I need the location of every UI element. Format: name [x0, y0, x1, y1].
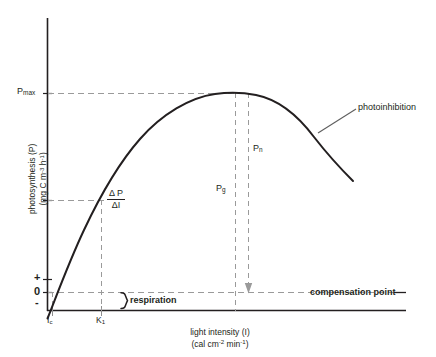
y-tick-label-plus: + — [34, 271, 40, 283]
pn-arrowhead-icon — [245, 283, 252, 294]
slope-denominator: ΔI — [107, 200, 125, 211]
x-axis-title-line2: (cal cm-2 min-1) — [191, 339, 248, 349]
photosynthesis-irradiance-chart: photosynthesis (P) (mg C m-3 h-1) light … — [0, 0, 436, 357]
x-axis-title-line1: light intensity (I) — [190, 327, 250, 337]
y-axis-title-line1: photosynthesis (P) — [27, 144, 37, 214]
pg-label: Pg — [216, 183, 226, 194]
compensation-point-label: compensation point — [310, 287, 396, 297]
slope-fraction: Δ P ΔI — [107, 188, 125, 210]
respiration-label: respiration — [130, 295, 177, 305]
y-tick-label-pmax: Pmax — [17, 86, 35, 97]
photoinhibition-label: photoinhibition — [358, 102, 416, 112]
chart-canvas — [0, 0, 436, 357]
y-axis-title-line2: (mg C m-3 h-1) — [38, 152, 48, 205]
slope-annotation: Δ P ΔI — [107, 188, 125, 212]
x-tick-label-k1: K1 — [96, 316, 105, 326]
photoinhibition-leader-line — [318, 109, 356, 133]
pn-label: Pn — [253, 143, 263, 154]
x-axis-title: light intensity (I) (cal cm-2 min-1) — [120, 327, 320, 350]
slope-numerator: Δ P — [107, 188, 125, 200]
pi-curve — [48, 93, 354, 319]
y-tick-label-minus: - — [35, 296, 39, 308]
respiration-brace-icon — [121, 293, 128, 309]
y-axis-title: photosynthesis (P) (mg C m-3 h-1) — [27, 94, 49, 264]
x-tick-label-ic: Ic — [47, 316, 52, 326]
